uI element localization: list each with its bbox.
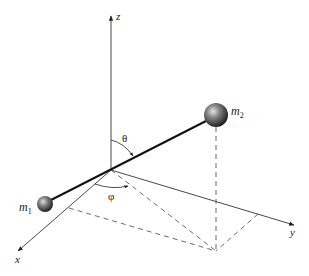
mass-m1-symbol: m xyxy=(19,200,28,214)
projection-x-to-point xyxy=(69,208,216,251)
rotor-rod xyxy=(51,121,206,200)
mass-m1-label: m1 xyxy=(19,200,32,216)
z-axis-label: z xyxy=(115,10,121,22)
projection-origin-to-point xyxy=(111,170,216,251)
projection-y-to-point xyxy=(216,214,258,251)
phi-arc xyxy=(95,184,128,188)
mass-m2-symbol: m xyxy=(231,104,240,118)
theta-label: θ xyxy=(122,132,127,144)
mass-m2-label: m2 xyxy=(231,104,244,120)
y-axis-label: y xyxy=(289,226,295,238)
mass-m2-subscript: 2 xyxy=(240,111,244,120)
mass-m2-sphere xyxy=(204,103,228,127)
diagram-canvas: z x y θ φ m1 m2 xyxy=(0,0,309,276)
mass-m1-subscript: 1 xyxy=(28,207,32,216)
y-axis xyxy=(111,170,294,225)
x-axis-label: x xyxy=(14,253,20,265)
x-axis xyxy=(18,170,111,251)
mass-m1-sphere xyxy=(37,196,53,212)
phi-label: φ xyxy=(108,190,114,202)
rotor-diagram: z x y θ φ m1 m2 xyxy=(0,0,309,276)
